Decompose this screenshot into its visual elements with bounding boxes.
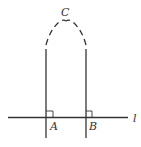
point-label-a: A (50, 121, 58, 132)
dashed-arc-left (46, 20, 66, 45)
point-label-c: C (61, 7, 69, 18)
point-label-b: B (89, 121, 97, 132)
right-angle-mark-A (46, 111, 53, 118)
geometry-diagram (0, 0, 141, 147)
line-label-l: l (133, 113, 137, 124)
right-angle-mark-B (86, 111, 92, 118)
dashed-arc-right (66, 20, 86, 45)
